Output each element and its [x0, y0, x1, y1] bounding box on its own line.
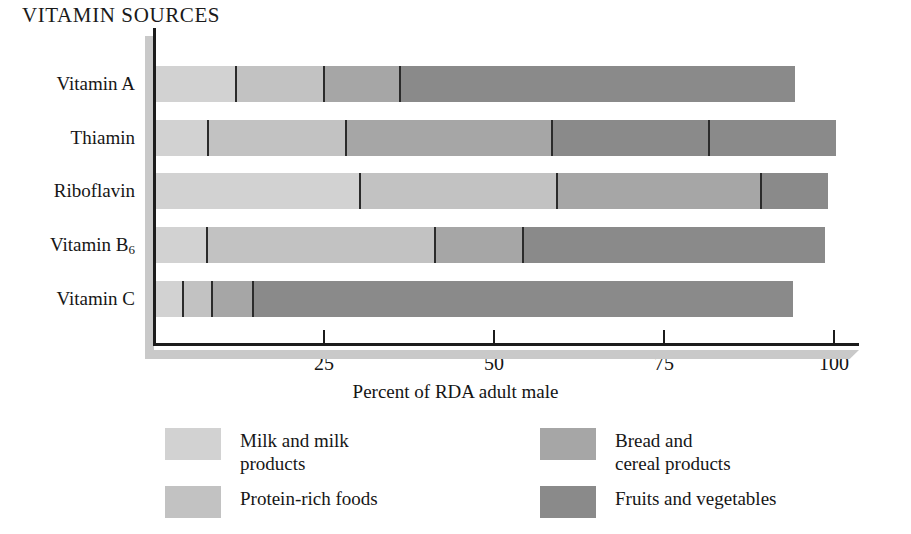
- bar-segment: [435, 227, 523, 263]
- x-axis-title: Percent of RDA adult male: [0, 381, 911, 403]
- segment-divider: [182, 281, 184, 317]
- segment-divider: [323, 66, 325, 102]
- segment-divider: [434, 227, 436, 263]
- bar-segment: [346, 120, 551, 156]
- bar-segment: [552, 120, 836, 156]
- legend-swatch: [165, 428, 221, 460]
- y-axis-category-labels: Vitamin AThiaminRiboflavinVitamin B6Vita…: [0, 26, 143, 344]
- legend-item: Fruits and vegetables: [540, 486, 776, 518]
- bar-row: [156, 173, 856, 209]
- legend-item: Milk and milk products: [165, 428, 349, 475]
- y-axis-line: [153, 28, 156, 345]
- segment-divider: [522, 227, 524, 263]
- bar-segment: [324, 66, 400, 102]
- legend-label: Bread and cereal products: [615, 428, 731, 475]
- x-tick: [833, 330, 835, 344]
- segment-divider: [359, 173, 361, 209]
- category-label-3: Riboflavin: [0, 180, 135, 202]
- legend-swatch: [540, 486, 596, 518]
- legend-item: Bread and cereal products: [540, 428, 731, 475]
- bar-row: [156, 120, 856, 156]
- segment-divider: [556, 173, 558, 209]
- segment-divider: [252, 281, 254, 317]
- bar-segment: [156, 66, 236, 102]
- bar-segment: [360, 173, 557, 209]
- bar-row: [156, 281, 856, 317]
- bar-segment: [183, 281, 212, 317]
- bar-segment: [400, 66, 795, 102]
- bar-segment: [212, 281, 253, 317]
- segment-divider: [551, 120, 553, 156]
- x-tick: [493, 330, 495, 344]
- bar-segment: [253, 281, 793, 317]
- bar-segment: [156, 227, 207, 263]
- segment-divider: [211, 281, 213, 317]
- category-label-1: Vitamin A: [0, 73, 135, 95]
- bar-segment: [207, 227, 435, 263]
- bar-segment: [523, 227, 825, 263]
- segment-divider: [399, 66, 401, 102]
- bar-segment: [156, 173, 360, 209]
- bar-segment: [156, 281, 183, 317]
- bar-segment: [156, 120, 208, 156]
- bar-segment: [557, 173, 761, 209]
- segment-divider: [760, 173, 762, 209]
- chart-title: VITAMIN SOURCES: [22, 3, 220, 28]
- segment-divider: [207, 120, 209, 156]
- legend-item: Protein-rich foods: [165, 486, 378, 518]
- category-label-4: Vitamin B6: [0, 234, 135, 256]
- x-axis-line: [153, 343, 859, 346]
- legend-label: Protein-rich foods: [240, 486, 378, 510]
- legend-label: Milk and milk products: [240, 428, 349, 475]
- bar-segment: [761, 173, 828, 209]
- bars-container: [156, 26, 856, 344]
- segment-divider: [206, 227, 208, 263]
- bar-segment: [208, 120, 347, 156]
- legend-label: Fruits and vegetables: [615, 486, 776, 510]
- legend-swatch: [540, 428, 596, 460]
- category-label-2: Thiamin: [0, 127, 135, 149]
- category-label-5: Vitamin C: [0, 288, 135, 310]
- segment-divider: [235, 66, 237, 102]
- segment-divider: [345, 120, 347, 156]
- x-axis-shadow: [145, 350, 859, 359]
- legend-swatch: [165, 486, 221, 518]
- x-tick: [663, 330, 665, 344]
- legend: Milk and milk productsProtein-rich foods…: [0, 428, 911, 534]
- bar-row: [156, 66, 856, 102]
- bar-segment: [236, 66, 324, 102]
- vitamin-sources-chart: VITAMIN SOURCES Vitamin AThiaminRiboflav…: [0, 0, 911, 534]
- bar-row: [156, 227, 856, 263]
- segment-divider-annotation: [708, 120, 710, 156]
- x-tick: [323, 330, 325, 344]
